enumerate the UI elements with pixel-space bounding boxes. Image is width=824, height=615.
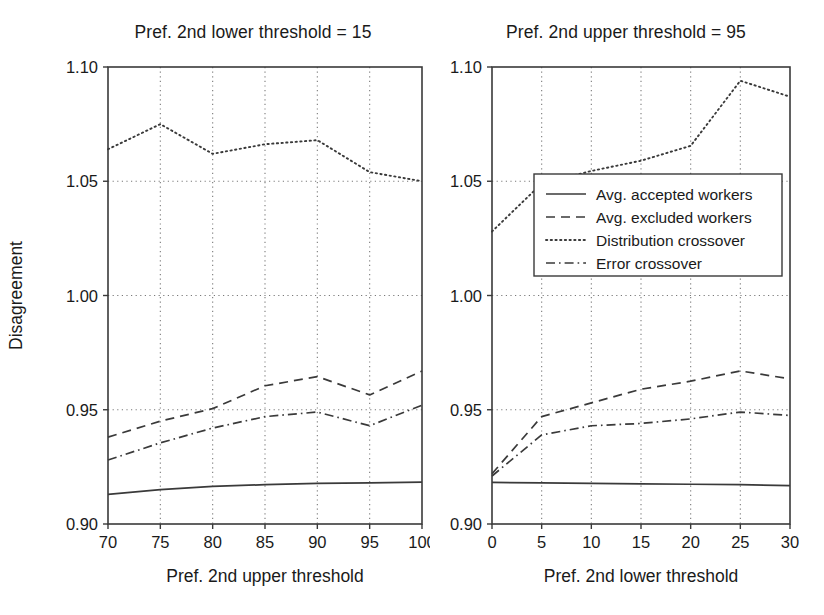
x-tick-label: 75 — [151, 533, 169, 551]
series-line-solid — [492, 482, 790, 485]
x-tick-label: 5 — [537, 533, 546, 551]
y-tick-label: 1.00 — [66, 287, 98, 305]
y-tick-label: 1.05 — [450, 172, 482, 190]
y-axis-title: Disagreement — [6, 241, 26, 350]
y-tick-label: 0.95 — [450, 401, 482, 419]
x-tick-label: 25 — [731, 533, 749, 551]
x-tick-label: 90 — [308, 533, 326, 551]
x-tick-label: 85 — [256, 533, 274, 551]
figure-root: Pref. 2nd lower threshold = 15 707580859… — [0, 0, 824, 615]
series-line-dashdot — [108, 405, 422, 460]
x-tick-label: 10 — [582, 533, 600, 551]
chart-legend: Avg. accepted workersAvg. excluded worke… — [534, 174, 782, 276]
x-tick-label: 30 — [781, 533, 799, 551]
y-tick-label: 1.10 — [450, 58, 482, 76]
x-tick-label: 15 — [632, 533, 650, 551]
series-line-dotted — [108, 124, 422, 181]
chart-panel-right: Pref. 2nd upper threshold = 95 051015202… — [384, 0, 824, 615]
x-axis-title: Pref. 2nd lower threshold — [544, 566, 739, 586]
y-tick-label: 1.05 — [66, 172, 98, 190]
x-axis-title: Pref. 2nd upper threshold — [166, 566, 364, 586]
y-tick-label: 0.90 — [450, 515, 482, 533]
x-tick-label: 0 — [487, 533, 496, 551]
y-tick-label: 1.00 — [450, 287, 482, 305]
y-tick-label: 1.10 — [66, 58, 98, 76]
chart-panel-left: Pref. 2nd lower threshold = 15 707580859… — [0, 0, 430, 615]
panel-right-plot: 0510152025300.900.951.001.051.10Pref. 2n… — [384, 0, 824, 615]
series-line-solid — [108, 482, 422, 494]
y-tick-label: 0.90 — [66, 515, 98, 533]
panel-left-plot: 7075808590951000.900.951.001.051.10Pref.… — [0, 0, 430, 615]
legend-label: Error crossover — [596, 255, 702, 272]
legend-label: Distribution crossover — [596, 232, 745, 249]
legend-label: Avg. accepted workers — [596, 186, 753, 203]
y-tick-label: 0.95 — [66, 401, 98, 419]
x-tick-label: 70 — [99, 533, 117, 551]
legend-label: Avg. excluded workers — [596, 209, 752, 226]
x-tick-label: 80 — [203, 533, 221, 551]
x-tick-label: 95 — [360, 533, 378, 551]
x-tick-label: 20 — [681, 533, 699, 551]
